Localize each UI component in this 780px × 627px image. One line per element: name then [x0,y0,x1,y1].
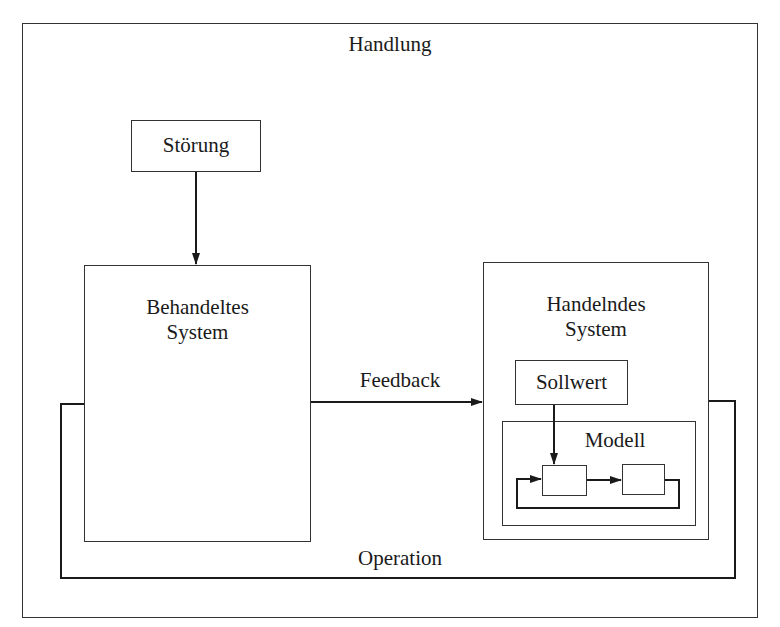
model-loop [517,479,679,508]
operation-loop [61,401,735,578]
connector-lines [0,0,780,627]
